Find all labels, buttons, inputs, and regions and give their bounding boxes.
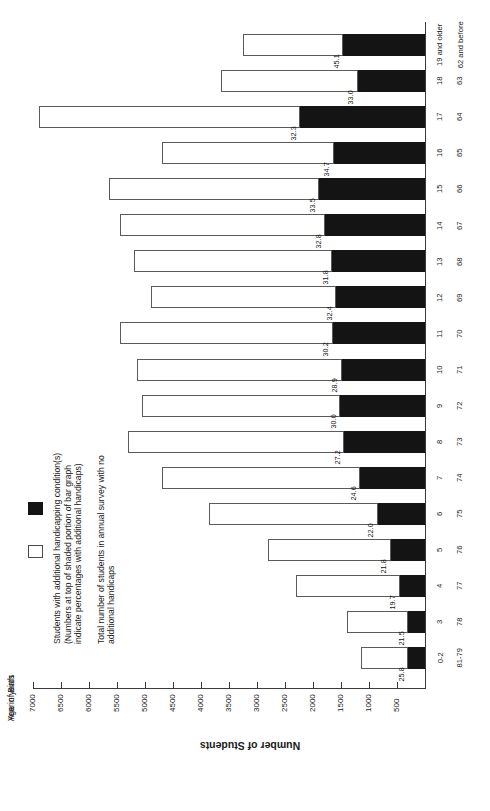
value-axis-tick-label: 1500	[337, 692, 357, 700]
value-axis-tick-label-text: 3000	[253, 692, 261, 712]
bar-percent-label: 24.6	[350, 487, 357, 501]
bar-segment-no-handicap: 25.8	[361, 647, 409, 669]
legend: Students with additional handicapping co…	[22, 352, 112, 652]
value-axis-tick-label-text: 7000	[29, 692, 37, 712]
value-axis-tick-label: 3500	[225, 692, 245, 700]
bar-row: 28.9	[137, 359, 425, 381]
bar-percent-label: 31.8	[322, 270, 329, 284]
bar-segment-additional-handicap	[400, 575, 425, 597]
bar-segment-additional-handicap	[378, 503, 425, 525]
bar-percent-label: 33.5	[309, 198, 316, 212]
value-axis-tick-label-text: 500	[393, 692, 401, 712]
value-axis-tick-label-text: 6500	[57, 692, 65, 712]
bar-segment-additional-handicap	[332, 250, 425, 272]
bar-percent-label: 28.9	[331, 379, 338, 393]
bar-row: 32.4	[151, 286, 425, 308]
legend-swatch-white	[28, 545, 43, 558]
bar-row: 34.7	[162, 142, 425, 164]
bar-segment-no-handicap: 28.9	[137, 359, 342, 381]
bar-segment-no-handicap: 32.4	[151, 286, 336, 308]
bar-row: 19.7	[296, 575, 425, 597]
bar-segment-no-handicap: 21.8	[268, 539, 391, 561]
bar-percent-label: 33.0	[347, 90, 354, 104]
value-axis-tick-label: 7000	[29, 692, 49, 700]
bar-segment-no-handicap: 33.5	[109, 178, 319, 200]
bar-row: 21.8	[268, 539, 425, 561]
bar-row: 33.5	[109, 178, 425, 200]
bar-row: 31.8	[134, 250, 425, 272]
value-axis-tick	[257, 682, 258, 689]
cat-axis-title-yob: Year of Birth	[0, 706, 22, 714]
bar-segment-additional-handicap	[360, 467, 425, 489]
bar-segment-additional-handicap	[408, 611, 425, 633]
bar-percent-label: 21.8	[381, 559, 388, 573]
bar-percent-label: 21.5	[398, 631, 405, 645]
bar-segment-additional-handicap	[342, 359, 425, 381]
value-axis-tick-label-text: 3500	[225, 692, 233, 712]
cat-axis-title-yob-text: Year of Birth	[7, 699, 15, 721]
category-label-year: 62 and before	[449, 10, 471, 80]
value-axis-tick	[397, 682, 398, 689]
bar-percent-label: 30.0	[330, 415, 337, 429]
bar-row: 27.2	[128, 431, 425, 453]
bar-segment-additional-handicap	[358, 70, 425, 92]
value-axis-tick	[33, 682, 34, 689]
bar-percent-label: 30.2	[323, 342, 330, 356]
value-axis-tick-label: 1000	[365, 692, 385, 700]
bar-segment-additional-handicap	[325, 214, 425, 236]
value-axis-tick	[89, 682, 90, 689]
value-axis-tick-label: 5000	[141, 692, 161, 700]
value-axis-tick-label: 500	[393, 692, 413, 700]
legend-label: Students with additional handicapping co…	[52, 453, 63, 644]
value-axis-tick-label-text: 4000	[197, 692, 205, 712]
bar-segment-additional-handicap	[336, 286, 425, 308]
value-axis-tick	[369, 682, 370, 689]
value-axis-tick-label-text: 1500	[337, 692, 345, 712]
bar-percent-label: 45.1	[333, 54, 340, 68]
bar-segment-additional-handicap	[333, 322, 425, 344]
value-axis-tick-label-text: 5000	[141, 692, 149, 712]
bar-row: 22.0	[209, 503, 425, 525]
bar-segment-no-handicap: 30.0	[142, 395, 340, 417]
value-axis-tick	[61, 682, 62, 689]
bar-percent-label: 22.0	[367, 523, 374, 537]
value-axis-tick	[313, 682, 314, 689]
value-axis-tick-label: 5500	[113, 692, 133, 700]
category-label-text: 19 and older	[436, 24, 444, 66]
bar-segment-no-handicap: 30.2	[120, 322, 333, 344]
bar-segment-no-handicap: 34.7	[162, 142, 334, 164]
value-axis-tick	[201, 682, 202, 689]
value-axis-tick-label: 2500	[281, 692, 301, 700]
value-axis-tick-label-text: 4500	[169, 692, 177, 712]
bar-row: 32.3	[39, 106, 425, 128]
bar-segment-additional-handicap	[300, 106, 425, 128]
bar-segment-no-handicap: 27.2	[128, 431, 344, 453]
bar-percent-label: 25.8	[398, 667, 405, 681]
bar-segment-additional-handicap	[344, 431, 425, 453]
legend-swatch-black	[28, 502, 43, 515]
legend-label: Total number of students in annual surve…	[96, 455, 107, 644]
value-axis-tick-label: 4000	[197, 692, 217, 700]
category-axis-line	[425, 22, 426, 688]
bar-percent-label: 32.3	[290, 126, 297, 140]
bar-row: 30.0	[142, 395, 425, 417]
value-axis-tick-label-text: 2500	[281, 692, 289, 712]
bar-segment-no-handicap: 21.5	[347, 611, 409, 633]
bar-row: 33.0	[221, 70, 425, 92]
value-axis-tick-label-text: 6000	[85, 692, 93, 712]
value-axis-tick-label: 3000	[253, 692, 273, 700]
bar-percent-label: 32.4	[326, 306, 333, 320]
bar-percent-label: 27.2	[334, 451, 341, 465]
legend-label: indicate percentages with additional han…	[73, 463, 84, 644]
bar-row: 32.8	[120, 214, 425, 236]
bar-segment-no-handicap: 19.7	[296, 575, 399, 597]
bar-segment-additional-handicap	[340, 395, 425, 417]
bar-segment-additional-handicap	[334, 142, 425, 164]
chart-canvas: 25.821.519.721.822.024.627.230.028.930.2…	[0, 0, 490, 811]
value-axis-tick	[173, 682, 174, 689]
bar-percent-label: 34.7	[324, 162, 331, 176]
value-axis-tick	[285, 682, 286, 689]
value-axis-tick-label-text: 5500	[113, 692, 121, 712]
bar-percent-label: 32.8	[315, 234, 322, 248]
bar-segment-no-handicap: 22.0	[209, 503, 377, 525]
